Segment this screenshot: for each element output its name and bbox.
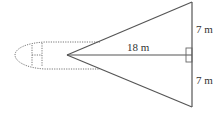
cone-diagram: 18 m 7 m 7 m bbox=[0, 0, 222, 115]
label-center-length: 18 m bbox=[127, 41, 150, 53]
lower-slant-edge bbox=[67, 55, 192, 107]
label-lower-half: 7 m bbox=[196, 74, 213, 86]
label-upper-half: 7 m bbox=[196, 23, 213, 35]
